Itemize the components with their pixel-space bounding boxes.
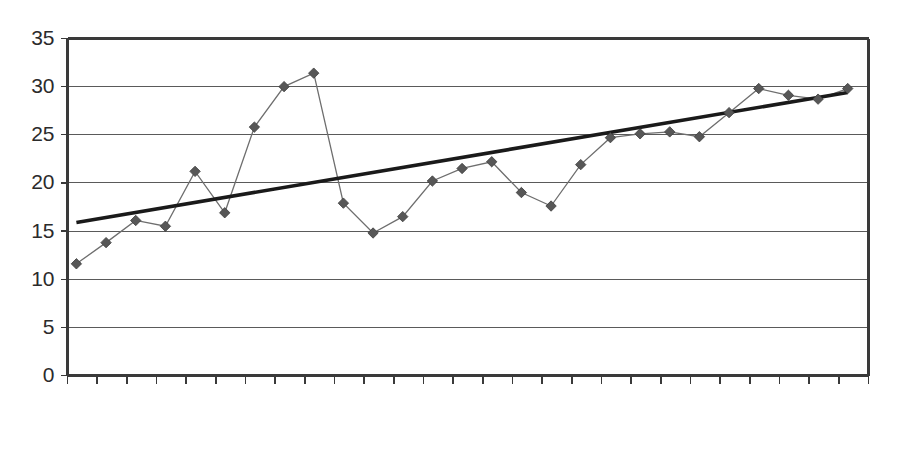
- line-chart: 05101520253035 1952195419561958196019621…: [0, 0, 901, 461]
- data-point-marker: [131, 215, 141, 225]
- y-tick-label: 25: [31, 122, 54, 145]
- x-axis-ticks: [68, 376, 869, 384]
- chart-container: 05101520253035 1952195419561958196019621…: [0, 0, 901, 461]
- y-tick-label: 0: [43, 363, 55, 386]
- y-tick-label: 20: [31, 170, 54, 193]
- data-point-marker: [309, 68, 319, 78]
- data-point-marker: [279, 81, 289, 91]
- y-tick-label: 5: [43, 315, 55, 338]
- y-tick-label: 10: [31, 267, 54, 290]
- y-tick-label: 15: [31, 219, 54, 242]
- data-point-marker: [249, 122, 259, 132]
- data-point-marker: [101, 237, 111, 247]
- gridlines: [68, 39, 869, 328]
- data-point-marker: [220, 208, 230, 218]
- data-point-marker: [190, 166, 200, 176]
- data-point-marker: [457, 163, 467, 173]
- data-point-marker: [546, 201, 556, 211]
- data-markers: [71, 68, 853, 269]
- y-tick-label: 30: [31, 74, 54, 97]
- data-point-marker: [71, 259, 81, 269]
- data-point-marker: [665, 127, 675, 137]
- data-point-marker: [160, 221, 170, 231]
- data-point-marker: [635, 129, 645, 139]
- y-axis-labels: 05101520253035: [31, 26, 54, 386]
- y-tick-label: 35: [31, 26, 54, 49]
- plot-border: [68, 39, 869, 376]
- data-point-marker: [783, 90, 793, 100]
